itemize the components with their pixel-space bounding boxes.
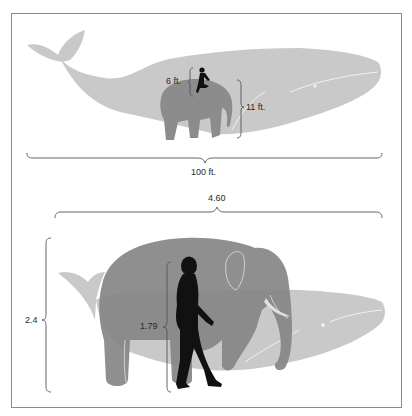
label-whale-length-ft: 100 ft.	[191, 167, 216, 177]
label-elephant-height-ft: 11 ft.	[246, 102, 265, 112]
label-human-height-m: 1.79	[140, 321, 158, 331]
label-human-height-ft: 6 ft.	[166, 76, 181, 86]
illustration	[0, 0, 412, 416]
label-elephant-height-m: 2.4	[25, 315, 38, 325]
label-elephant-length-m: 4.60	[208, 193, 226, 203]
